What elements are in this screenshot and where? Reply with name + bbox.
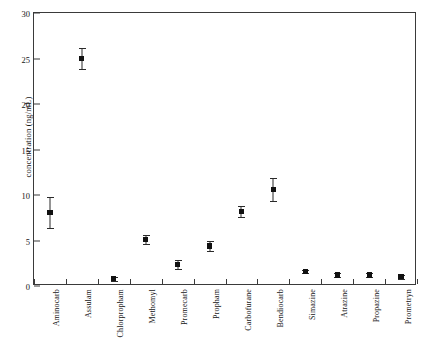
data-point-marker: [79, 56, 84, 61]
data-point-marker: [239, 209, 244, 214]
error-bar-cap-lower: [207, 251, 214, 252]
x-axis-tick: [257, 279, 258, 284]
error-bar-cap-lower: [79, 69, 86, 70]
error-bar-cap-upper: [238, 206, 245, 207]
x-axis-tick: [130, 279, 131, 284]
y-axis-tick: 10: [34, 195, 40, 196]
y-axis-tick-label: 25: [22, 54, 31, 64]
y-axis-tick-label: 20: [22, 100, 31, 110]
x-axis-category-label: Propham: [212, 289, 221, 345]
error-bar-cap-upper: [270, 178, 277, 179]
y-axis-tick-label: 10: [22, 191, 31, 201]
error-bar-cap-upper: [79, 48, 86, 49]
data-point-marker: [207, 243, 212, 248]
y-axis-tick-label: 0: [26, 282, 30, 292]
y-axis-tick: 25: [34, 58, 40, 59]
x-axis-category-label: Atrazine: [340, 289, 349, 345]
data-point-marker: [143, 237, 148, 242]
x-axis-category-label: Prometryn: [404, 289, 413, 345]
data-point-marker: [335, 272, 340, 277]
y-axis-tick-label: 15: [22, 145, 31, 155]
x-axis-category-label: Methomyl: [148, 289, 157, 345]
x-axis-category-label: Chlorpropham: [116, 289, 125, 345]
y-axis-tick-label: 30: [22, 9, 31, 19]
data-point-marker: [111, 276, 116, 281]
x-axis-category-label: Simazine: [308, 289, 317, 345]
error-bar-cap-lower: [270, 201, 277, 202]
y-axis-tick: 30: [34, 13, 40, 14]
x-axis-tick: [417, 279, 418, 284]
y-axis-tick: 0: [34, 286, 40, 287]
error-bar-cap-upper: [175, 260, 182, 261]
x-axis-tick: [162, 279, 163, 284]
error-bar-cap-lower: [143, 244, 150, 245]
data-point-marker: [398, 274, 403, 279]
x-axis-tick: [321, 279, 322, 284]
plot-area: 051015202530: [33, 12, 416, 285]
data-point-marker: [303, 269, 308, 274]
error-bar-cap-lower: [47, 228, 54, 229]
x-axis-tick: [194, 279, 195, 284]
data-point-marker: [271, 187, 276, 192]
error-bar-cap-upper: [207, 241, 214, 242]
data-point-marker: [175, 262, 180, 267]
x-axis-category-label: Propazine: [372, 289, 381, 345]
x-axis-category-label: Promecarb: [180, 289, 189, 345]
data-point-marker: [47, 210, 52, 215]
x-axis-tick: [34, 279, 35, 284]
chart-figure: concentration (ng/mL) 051015202530 Amino…: [0, 0, 425, 345]
x-axis-category-label: Assulam: [84, 289, 93, 345]
x-axis-tick: [385, 279, 386, 284]
x-axis-tick: [353, 279, 354, 284]
error-bar-cap-lower: [175, 269, 182, 270]
y-axis-tick: 5: [34, 240, 40, 241]
x-axis-tick: [226, 279, 227, 284]
x-axis-tick: [289, 279, 290, 284]
data-point-marker: [367, 272, 372, 277]
y-axis-tick: 15: [34, 149, 40, 150]
x-axis-tick: [66, 279, 67, 284]
y-axis-tick: 20: [34, 104, 40, 105]
x-axis-tick: [98, 279, 99, 284]
x-axis-category-label: Carbofurane: [244, 289, 253, 345]
x-axis-category-label: Aminocarb: [52, 289, 61, 345]
y-axis-tick-label: 5: [26, 236, 30, 246]
error-bar-cap-lower: [238, 217, 245, 218]
error-bar-cap-upper: [47, 197, 54, 198]
x-axis-category-label: Bendiocarb: [276, 289, 285, 345]
error-bar-cap-upper: [143, 235, 150, 236]
